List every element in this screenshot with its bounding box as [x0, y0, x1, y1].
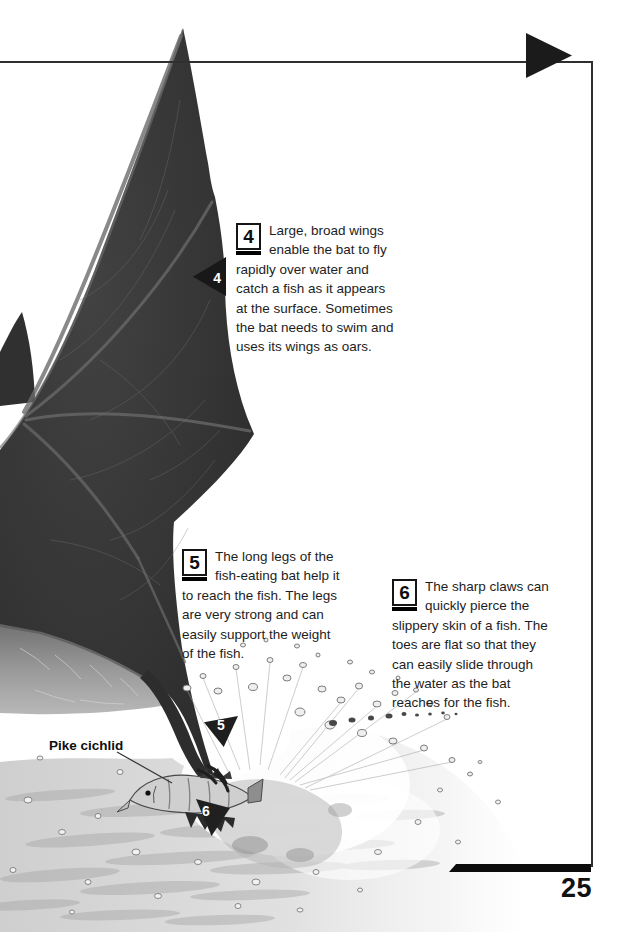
callout-6-underline	[392, 607, 417, 611]
callout-6-number-box: 6	[392, 579, 417, 611]
callout-5-text: The long legs of thefish-eating bat help…	[182, 547, 368, 663]
water-surface	[0, 695, 528, 932]
callout-6: 6 The sharp claws canquickly pierce thes…	[392, 577, 584, 713]
callout-4: 4 Large, broad wingsenable the bat to fl…	[236, 221, 420, 357]
page-number: 25	[500, 873, 592, 904]
page-frame-top-rule	[0, 61, 593, 63]
callout-4-underline	[236, 251, 261, 255]
callout-6-number: 6	[392, 579, 417, 606]
callout-4-text: Large, broad wingsenable the bat to flyr…	[236, 221, 420, 357]
callout-5-underline	[182, 577, 207, 581]
footer-rule-bar	[449, 864, 591, 872]
bat-catching-fish-illustration	[0, 0, 637, 932]
book-page: 25 4 Large, broad wingsenable the bat to…	[0, 0, 637, 932]
callout-4-number: 4	[236, 223, 261, 250]
bat-wing-second-tip	[0, 312, 35, 406]
callout-5: 5 The long legs of thefish-eating bat he…	[182, 547, 368, 663]
callout-4-number-box: 4	[236, 223, 261, 255]
fish-species-label: Pike cichlid	[49, 738, 123, 753]
callout-5-number: 5	[182, 549, 207, 576]
page-frame-right-rule	[591, 61, 593, 867]
callout-6-text: The sharp claws canquickly pierce thesli…	[392, 577, 584, 713]
wing-marker-4-number: 4	[213, 270, 221, 286]
callout-5-number-box: 5	[182, 549, 207, 581]
